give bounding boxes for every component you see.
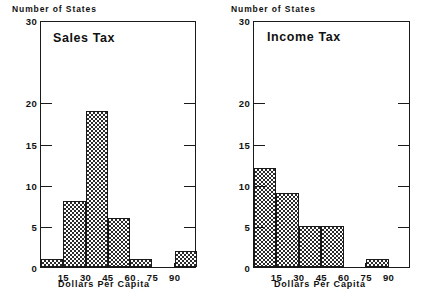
x-axis-tick: [365, 263, 366, 267]
y-axis-tick-right: [398, 186, 409, 187]
histogram-bar: [299, 226, 321, 267]
y-axis-tick: [41, 186, 52, 187]
histogram-bar: [366, 259, 388, 267]
histogram-bar: [130, 259, 152, 267]
y-axis-tick-label: 20: [228, 98, 250, 109]
y-axis-tick-right: [184, 227, 195, 228]
y-axis-tick-right: [184, 186, 195, 187]
x-axis-tick: [343, 263, 344, 267]
y-axis-tick-label: 30: [15, 16, 37, 27]
x-axis-tick-label: 90: [163, 272, 187, 283]
panel-income-tax: Number of States Income Tax 051015203015…: [212, 0, 423, 301]
bar-series-income-tax: [254, 22, 409, 267]
histogram-bar: [41, 259, 63, 267]
plot-area-sales-tax: Sales Tax 0510152030153045607590: [40, 21, 196, 268]
y-axis-tick: [254, 227, 265, 228]
histogram-bar: [254, 168, 276, 267]
x-axis-tick: [107, 263, 108, 267]
histogram-bar: [86, 111, 108, 267]
x-axis-tick: [174, 263, 175, 267]
y-axis-tick-label: 30: [228, 16, 250, 27]
histogram-bar: [276, 193, 298, 267]
x-axis-title: Dollars Per Capita: [274, 279, 366, 289]
histogram-bar: [175, 251, 197, 267]
x-axis-tick: [151, 263, 152, 267]
y-axis-tick-right: [184, 145, 195, 146]
y-axis-tick-label: 5: [228, 222, 250, 233]
x-axis-tick: [298, 263, 299, 267]
x-axis-tick: [275, 263, 276, 267]
histogram-bar: [321, 226, 343, 267]
y-axis-tick-label: 10: [15, 181, 37, 192]
y-axis-tick-right: [398, 145, 409, 146]
y-axis-tick-label: 15: [228, 140, 250, 151]
y-axis-tick-label: 20: [15, 98, 37, 109]
histogram-bar: [108, 218, 130, 267]
plot-area-income-tax: Income Tax 0510152030153045607590: [253, 21, 410, 268]
x-axis-tick: [388, 263, 389, 267]
x-axis-tick: [62, 263, 63, 267]
y-axis-tick-right: [184, 103, 195, 104]
y-axis-tick: [254, 186, 265, 187]
panel-sales-tax: Number of States Sales Tax 0510152030153…: [0, 0, 211, 301]
y-axis-title: Number of States: [12, 4, 97, 14]
y-axis-tick-label: 0: [228, 263, 250, 274]
y-axis-tick: [41, 103, 52, 104]
bar-series-sales-tax: [41, 22, 195, 267]
y-axis-tick-label: 0: [15, 263, 37, 274]
y-axis-tick-label: 5: [15, 222, 37, 233]
y-axis-title: Number of States: [231, 4, 316, 14]
y-axis-tick-label: 10: [228, 181, 250, 192]
x-axis-tick: [85, 263, 86, 267]
y-axis-tick-label: 15: [15, 140, 37, 151]
y-axis-tick-right: [398, 103, 409, 104]
x-axis-tick-label: 90: [377, 272, 401, 283]
y-axis-tick: [254, 103, 265, 104]
y-axis-tick: [41, 145, 52, 146]
x-axis-tick: [320, 263, 321, 267]
y-axis-tick: [41, 227, 52, 228]
x-axis-title: Dollars Per Capita: [58, 279, 150, 289]
histogram-bar: [63, 201, 85, 267]
x-axis-tick: [129, 263, 130, 267]
y-axis-tick-right: [398, 227, 409, 228]
y-axis-tick: [254, 145, 265, 146]
histogram-figure: Number of States Sales Tax 0510152030153…: [0, 0, 423, 301]
